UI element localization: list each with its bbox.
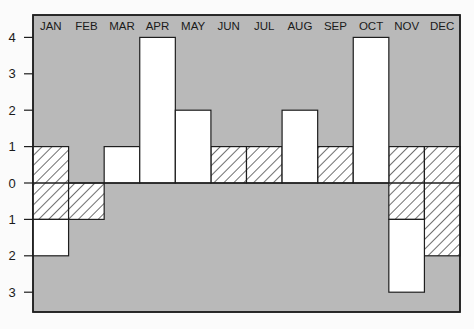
month-label-oct: OCT xyxy=(359,20,383,32)
chart: JANFEBMARAPRMAYJUNJULAUGSEPOCTNOVDEC 432… xyxy=(0,0,474,329)
month-label-jul: JUL xyxy=(254,20,275,32)
month-label-dec: DEC xyxy=(430,20,454,32)
y-tick-label: 2 xyxy=(8,103,15,118)
month-label-may: MAY xyxy=(181,20,205,32)
month-label-aug: AUG xyxy=(287,20,312,32)
month-label-jan: JAN xyxy=(40,20,62,32)
month-label-nov: NOV xyxy=(394,20,419,32)
white-bar-mar xyxy=(104,147,140,183)
y-tick-label: 0 xyxy=(8,176,15,191)
hatched-bar-sep xyxy=(318,147,354,183)
hatched-bar-dec xyxy=(424,147,460,256)
white-bar-oct xyxy=(353,37,389,183)
y-tick-label: 1 xyxy=(8,139,15,154)
white-bar-apr xyxy=(140,37,176,183)
month-label-mar: MAR xyxy=(109,20,135,32)
hatched-bar-feb xyxy=(69,183,105,219)
month-label-jun: JUN xyxy=(218,20,240,32)
y-tick-label: 3 xyxy=(8,285,15,300)
y-tick-label: 1 xyxy=(8,212,15,227)
y-tick-label: 3 xyxy=(8,66,15,81)
y-axis: 43210123 xyxy=(8,30,33,300)
white-bar-nov xyxy=(389,219,425,292)
white-bar-aug xyxy=(282,110,318,183)
month-label-apr: APR xyxy=(146,20,170,32)
hatched-bar-jun xyxy=(211,147,247,183)
y-tick-label: 4 xyxy=(8,30,15,45)
month-label-sep: SEP xyxy=(324,20,347,32)
white-bar-may xyxy=(175,110,211,183)
hatched-bar-jul xyxy=(247,147,283,183)
y-tick-label: 2 xyxy=(8,248,15,263)
month-label-feb: FEB xyxy=(75,20,98,32)
white-bar-jan xyxy=(33,219,69,255)
